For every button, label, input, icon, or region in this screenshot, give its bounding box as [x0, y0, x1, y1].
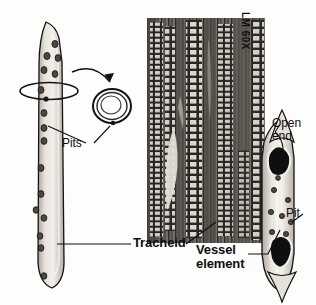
label-open-end: Open end: [272, 117, 301, 143]
figure-tracheid-vessel-element: LM 60X: [0, 0, 316, 305]
label-pit: Pit: [286, 207, 300, 220]
vessel-element-layer: [0, 0, 316, 305]
label-vessel-element: Vessel element: [196, 243, 244, 271]
label-pits: Pits: [62, 137, 82, 150]
label-tracheid: Tracheid: [133, 236, 186, 250]
